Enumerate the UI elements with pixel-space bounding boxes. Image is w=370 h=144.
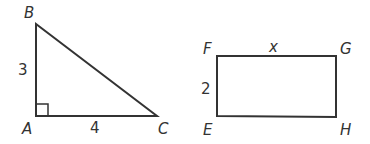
- side-label-ab: 3: [18, 61, 28, 79]
- vertex-label-e: E: [203, 121, 213, 139]
- right-angle-marker-icon: [36, 104, 48, 116]
- rectangle-efgh: F G E H 2 x: [201, 38, 352, 139]
- right-triangle-abc: B A C 3 4: [18, 4, 169, 138]
- diagram-canvas: B A C 3 4 F G E H 2 x: [0, 0, 370, 144]
- vertex-label-h: H: [340, 121, 351, 139]
- vertex-label-f: F: [203, 40, 212, 58]
- side-label-fe: 2: [201, 80, 211, 98]
- vertex-label-g: G: [340, 40, 352, 58]
- vertex-label-b: B: [24, 4, 34, 22]
- triangle-outline: [36, 24, 157, 116]
- rectangle-outline: [217, 56, 336, 117]
- vertex-label-c: C: [158, 120, 169, 138]
- vertex-label-a: A: [21, 120, 32, 138]
- side-label-fg: x: [268, 38, 278, 56]
- side-label-ac: 4: [90, 119, 100, 137]
